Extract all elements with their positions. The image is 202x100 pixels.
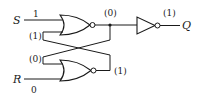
node-label-top-output: (0): [104, 8, 117, 18]
not-gate: [137, 17, 160, 34]
output-q-label: Q: [182, 19, 191, 32]
feedback-label-top: (1): [29, 31, 42, 41]
input-s-label: S: [13, 14, 21, 27]
nor-gate-top: [60, 15, 95, 35]
input-r-label: R: [12, 73, 21, 86]
node-label-bottom-output: (1): [114, 66, 127, 76]
node-label-inverter-output: (1): [163, 8, 176, 18]
input-s-value: 1: [33, 9, 39, 19]
wire-top-feedback-input: [43, 32, 63, 40]
feedback-label-bottom: (0): [29, 54, 42, 64]
input-r-value: 0: [31, 85, 37, 95]
nor-gate-bottom: [60, 60, 96, 81]
sr-latch-diagram: S 1 R 0 (1) (0) (0) (1) (1) Q: [0, 0, 202, 100]
nor-bottom-inversion-bubble: [91, 68, 96, 73]
nor-top-inversion-bubble: [90, 23, 95, 28]
not-inversion-bubble: [155, 23, 160, 28]
